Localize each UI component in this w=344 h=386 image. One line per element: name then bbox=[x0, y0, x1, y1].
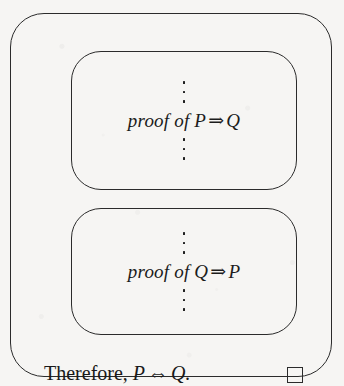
dot bbox=[183, 289, 186, 292]
conclusion-left-var: P bbox=[133, 362, 145, 384]
proof-figure: proof of P⇒Q proof of Q⇒P bbox=[0, 0, 344, 386]
proof-prefix-first: proof of bbox=[128, 110, 195, 131]
conclusion-terminator: . bbox=[186, 362, 191, 384]
dot bbox=[183, 232, 186, 235]
consequent-second: P bbox=[228, 261, 240, 282]
antecedent-second: Q bbox=[194, 261, 208, 282]
proof-block-p-implies-q: proof of P⇒Q bbox=[71, 51, 297, 190]
qed-tombstone-icon bbox=[287, 367, 303, 383]
dot bbox=[183, 81, 186, 84]
conclusion-lead: Therefore, bbox=[44, 362, 133, 384]
iff-operator: ⇔ bbox=[145, 362, 171, 384]
dot bbox=[183, 242, 186, 245]
vertical-dots-below-first bbox=[183, 135, 186, 163]
consequent-first: Q bbox=[226, 110, 240, 131]
dot bbox=[183, 157, 186, 160]
vertical-dots-above-second bbox=[183, 229, 186, 257]
conclusion-statement: Therefore, P⇔Q. bbox=[44, 362, 191, 385]
proof-block-label-second: proof of Q⇒P bbox=[128, 260, 240, 283]
dot bbox=[183, 91, 186, 94]
dot bbox=[183, 100, 186, 103]
conclusion-row: Therefore, P⇔Q. bbox=[44, 358, 312, 386]
dot bbox=[183, 308, 186, 311]
vertical-dots-above-first bbox=[183, 78, 186, 106]
outer-proof-box: proof of P⇒Q proof of Q⇒P bbox=[10, 13, 332, 377]
antecedent-first: P bbox=[194, 110, 206, 131]
dot bbox=[183, 148, 186, 151]
vertical-dots-below-second bbox=[183, 286, 186, 314]
implies-operator-second: ⇒ bbox=[208, 261, 228, 282]
implies-operator-first: ⇒ bbox=[206, 110, 226, 131]
proof-prefix-second: proof of bbox=[128, 261, 195, 282]
proof-block-label-first: proof of P⇒Q bbox=[128, 109, 240, 132]
proof-block-q-implies-p: proof of Q⇒P bbox=[71, 208, 297, 335]
dot bbox=[183, 138, 186, 141]
dot bbox=[183, 299, 186, 302]
conclusion-right-var: Q bbox=[171, 362, 185, 384]
dot bbox=[183, 251, 186, 254]
